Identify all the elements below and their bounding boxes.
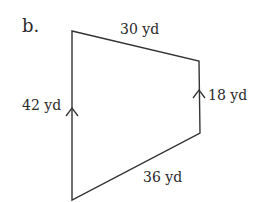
side-label-right: 18 yd bbox=[208, 88, 247, 102]
side-label-bottom: 36 yd bbox=[143, 170, 182, 184]
side-label-left: 42 yd bbox=[22, 98, 61, 112]
trapezoid-figure: b. 30 yd 18 yd 42 yd 36 yd bbox=[0, 0, 273, 202]
side-label-top: 30 yd bbox=[120, 22, 159, 36]
part-label: b. bbox=[22, 17, 39, 35]
